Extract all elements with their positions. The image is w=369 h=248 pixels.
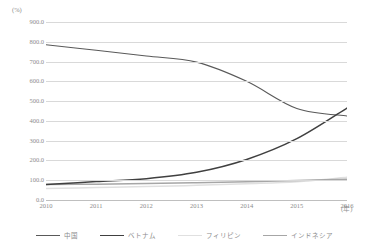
legend-label: インドネシア xyxy=(291,230,333,240)
y-axis-tick: 700.0 xyxy=(4,58,44,65)
plot-area xyxy=(46,22,347,200)
x-axis-tick: 2010 xyxy=(40,202,53,209)
legend-line-icon xyxy=(263,235,287,236)
x-axis-tick: 2012 xyxy=(140,202,153,209)
series-line xyxy=(46,45,347,116)
gridline xyxy=(46,141,347,142)
y-axis-tick: 300.0 xyxy=(4,137,44,144)
gridline xyxy=(46,200,347,201)
y-axis-tick-labels: 900.0800.0700.0600.0500.0400.0300.0200.0… xyxy=(0,22,44,200)
gridline xyxy=(46,62,347,63)
x-axis-tick-labels: 2010201120122013201420152016 xyxy=(46,202,347,216)
gridline xyxy=(46,42,347,43)
y-axis-tick: 800.0 xyxy=(4,38,44,45)
gridline xyxy=(46,121,347,122)
series-line xyxy=(46,108,347,185)
legend-label: 中国 xyxy=(64,230,78,240)
x-axis-tick: 2014 xyxy=(240,202,253,209)
legend-item[interactable]: フィリピン xyxy=(178,230,241,240)
series-lines xyxy=(46,22,347,200)
legend-item[interactable]: 中国 xyxy=(36,230,78,240)
legend-item[interactable]: インドネシア xyxy=(263,230,333,240)
legend-label: フィリピン xyxy=(206,230,241,240)
y-axis-unit-label: (%) xyxy=(12,6,22,13)
y-axis-tick: 400.0 xyxy=(4,117,44,124)
gridline xyxy=(46,101,347,102)
x-axis-tick: 2011 xyxy=(90,202,103,209)
y-axis-tick: 500.0 xyxy=(4,97,44,104)
gridline xyxy=(46,81,347,82)
chart-legend: 中国ベトナムフィリピンインドネシア xyxy=(0,228,369,242)
y-axis-tick: 0.0 xyxy=(4,196,44,203)
gridline xyxy=(46,22,347,23)
legend-line-icon xyxy=(178,235,202,236)
y-axis-tick: 100.0 xyxy=(4,176,44,183)
x-axis-tick: 2016 xyxy=(341,202,354,209)
x-axis-tick: 2015 xyxy=(290,202,303,209)
y-axis-tick: 600.0 xyxy=(4,77,44,84)
y-axis-tick: 900.0 xyxy=(4,18,44,25)
legend-item[interactable]: ベトナム xyxy=(100,230,156,240)
y-axis-tick: 200.0 xyxy=(4,156,44,163)
x-axis-tick: 2013 xyxy=(190,202,203,209)
gridline xyxy=(46,180,347,181)
line-chart: (%) (年) 900.0800.0700.0600.0500.0400.030… xyxy=(0,0,369,248)
gridline xyxy=(46,160,347,161)
legend-line-icon xyxy=(36,235,60,236)
legend-line-icon xyxy=(100,235,124,236)
legend-label: ベトナム xyxy=(128,230,156,240)
